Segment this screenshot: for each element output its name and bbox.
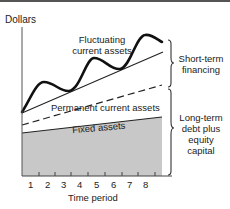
- x-tick-6: 6: [111, 179, 116, 190]
- x-tick-2: 2: [45, 179, 50, 190]
- fluctuating-label-2: current assets: [64, 45, 140, 56]
- fluctuating-label-1: Fluctuating: [64, 34, 140, 45]
- x-tick-3: 3: [61, 179, 66, 190]
- long-term-label-4: capital: [172, 145, 230, 156]
- x-tick-5: 5: [94, 179, 99, 190]
- x-tick-8: 8: [143, 179, 148, 190]
- y-axis-label: Dollars: [5, 14, 36, 25]
- x-tick-7: 7: [127, 179, 132, 190]
- x-tick-4: 4: [77, 179, 82, 190]
- long-term-label-1: Long-term: [172, 112, 230, 123]
- short-term-label-2: financing: [172, 64, 230, 75]
- short-term-label-1: Short-term: [172, 53, 230, 64]
- x-tick-1: 1: [28, 179, 33, 190]
- long-term-label-2: debt plus: [172, 123, 230, 134]
- x-axis-label: Time period: [60, 192, 126, 203]
- permanent-current-assets-label: Permanent current assets: [51, 102, 160, 113]
- long-term-label-3: equity: [172, 134, 230, 145]
